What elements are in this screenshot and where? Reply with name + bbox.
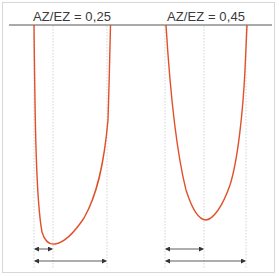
panel-label-left: AZ/EZ = 0,25: [33, 9, 111, 24]
panel-label-right: AZ/EZ = 0,45: [167, 9, 245, 24]
curve-left: [34, 25, 111, 244]
curve-right: [166, 25, 247, 220]
diagram-canvas: [0, 0, 279, 276]
guides-left: [34, 26, 107, 268]
